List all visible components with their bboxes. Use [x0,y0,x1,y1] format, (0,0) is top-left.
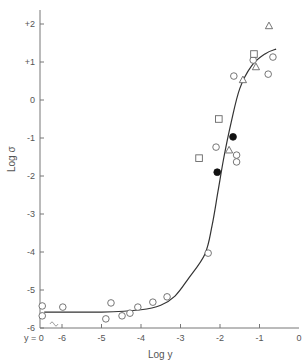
fit-curve [44,49,276,312]
open-circle-point [265,71,272,78]
open-circle-point [250,57,257,64]
triangle-point [239,76,246,83]
open-circle-point [127,310,134,317]
x-tick-label: -3 [176,333,184,343]
open-circle-point [270,54,277,61]
chart: +2+10-1-2-3-4-5-6 -6-5-4-3-2-10 y = 0 Lo… [0,0,305,364]
open-circle-point [119,313,126,320]
x-tick-label: -1 [255,333,263,343]
x-axis-break [50,322,58,326]
x-tick-label: -4 [137,333,145,343]
open-circle-point [103,316,110,323]
x-tick-label: 0 [296,333,301,343]
square-point [196,155,203,162]
square-point [216,116,223,123]
open-circle-point [231,73,238,80]
x-tick-label: -5 [97,333,105,343]
data-points [39,22,276,322]
x-tick-label: -6 [58,333,66,343]
y-tick-label: 0 [30,95,35,105]
open-circle-point [150,299,157,306]
x-break-label: y = 0 [24,333,44,343]
y-tick-label: +2 [25,19,35,29]
open-circle-point [108,300,115,307]
y-tick-label: -1 [27,133,35,143]
x-axis-title: Log y [148,349,172,360]
open-circle-point [39,303,46,310]
square-point [251,51,258,58]
open-circle-point [39,313,46,320]
y-tick-label: -2 [27,171,35,181]
y-ticks: +2+10-1-2-3-4-5-6 [25,19,44,333]
open-circle-point [135,304,142,311]
y-axis-title: Log σ [6,146,17,172]
open-circle-point [233,159,240,166]
open-circle-point [59,304,66,311]
open-circle-point [213,144,220,151]
x-ticks: -6-5-4-3-2-10 [58,324,302,343]
y-tick-label: -5 [27,285,35,295]
y-tick-label: -6 [27,323,35,333]
y-tick-label: -3 [27,209,35,219]
y-tick-label: +1 [25,57,35,67]
open-circle-point [233,152,240,159]
filled-circle-point [230,133,237,140]
open-circle-point [164,294,171,301]
y-tick-label: -4 [27,247,35,257]
open-circle-point [205,250,212,257]
triangle-point [225,146,232,153]
filled-circle-point [214,169,221,176]
triangle-point [265,22,272,29]
x-tick-label: -2 [216,333,224,343]
